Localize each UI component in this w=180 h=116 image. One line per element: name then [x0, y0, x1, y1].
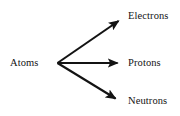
atom-concept-diagram: Atoms Electrons Protons Neutrons [0, 0, 180, 116]
node-label-neutrons: Neutrons [128, 95, 167, 107]
node-label-atoms: Atoms [10, 57, 39, 69]
arrow-atoms-to-electrons [58, 21, 119, 63]
arrow-atoms-to-neutrons [58, 63, 116, 99]
node-label-electrons: Electrons [128, 10, 169, 22]
node-label-protons: Protons [128, 57, 161, 69]
